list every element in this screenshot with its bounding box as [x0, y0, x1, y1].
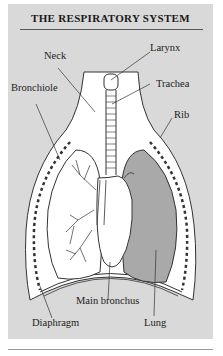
label-trachea: Trachea [156, 78, 189, 89]
label-diaphragm: Diaphragm [32, 317, 79, 328]
bottom-divider [8, 349, 213, 350]
label-bronchiole: Bronchiole [11, 82, 58, 93]
label-lung: Lung [144, 317, 166, 328]
label-larynx: Larynx [150, 42, 180, 53]
label-rib: Rib [174, 109, 189, 120]
label-main-bronchus: Main bronchus [76, 295, 139, 306]
label-neck: Neck [44, 50, 66, 61]
